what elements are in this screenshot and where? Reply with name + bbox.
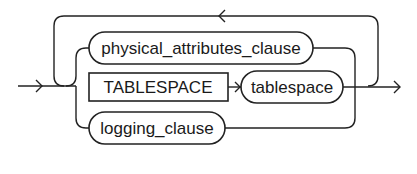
node-logging-clause[interactable]: logging_clause: [89, 112, 225, 144]
node-label: physical_attributes_clause: [101, 39, 300, 58]
node-label: tablespace: [251, 78, 333, 97]
node-physical-attributes-clause[interactable]: physical_attributes_clause: [89, 32, 313, 64]
node-tablespace[interactable]: tablespace: [241, 71, 343, 103]
node-tablespace-keyword[interactable]: TABLESPACE: [89, 73, 228, 101]
node-label: logging_clause: [100, 119, 213, 138]
syntax-diagram: physical_attributes_clause TABLESPACE ta…: [0, 0, 417, 174]
node-label: TABLESPACE: [104, 78, 213, 97]
